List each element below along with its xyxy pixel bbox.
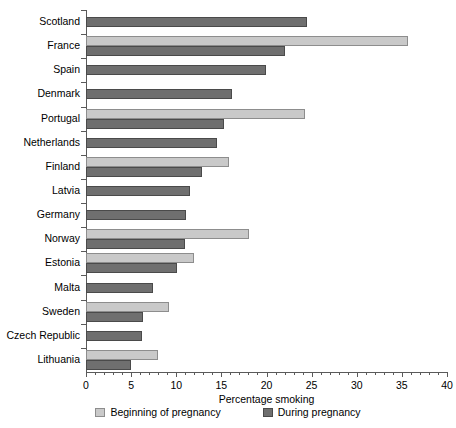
bar-during-france bbox=[86, 46, 285, 56]
x-axis-minor-tick bbox=[384, 372, 385, 375]
bar-during-latvia bbox=[86, 186, 190, 196]
y-axis-tick bbox=[81, 82, 86, 83]
category-label-norway: Norway bbox=[0, 233, 80, 244]
x-axis-minor-tick bbox=[411, 372, 412, 375]
x-axis-minor-tick bbox=[203, 372, 204, 375]
category-label-estonia: Estonia bbox=[0, 257, 80, 268]
y-axis-tick bbox=[81, 251, 86, 252]
x-axis-minor-tick bbox=[285, 372, 286, 375]
legend-swatch-begin-icon bbox=[95, 408, 105, 417]
x-axis-minor-tick bbox=[239, 372, 240, 375]
x-axis-tick-label: 25 bbox=[297, 379, 327, 391]
x-axis-tick-label: 5 bbox=[116, 379, 146, 391]
x-axis-minor-tick bbox=[303, 372, 304, 375]
y-axis-tick bbox=[81, 227, 86, 228]
x-axis-tick-label: 0 bbox=[71, 379, 101, 391]
x-axis-tick-label: 20 bbox=[252, 379, 282, 391]
x-axis-minor-tick bbox=[339, 372, 340, 375]
x-axis-title: Percentage smoking bbox=[86, 393, 447, 405]
bar-begin-lithuania bbox=[86, 350, 158, 360]
legend-item-during: During pregnancy bbox=[263, 406, 361, 418]
x-axis-minor-tick bbox=[420, 372, 421, 375]
y-axis-tick bbox=[81, 10, 86, 11]
x-axis-minor-tick bbox=[276, 372, 277, 375]
x-axis-minor-tick bbox=[122, 372, 123, 375]
x-axis-major-tick bbox=[402, 372, 403, 377]
x-axis-minor-tick bbox=[104, 372, 105, 375]
category-label-finland: Finland bbox=[0, 161, 80, 172]
x-axis-minor-tick bbox=[95, 372, 96, 375]
x-axis-minor-tick bbox=[230, 372, 231, 375]
legend-swatch-during-icon bbox=[263, 408, 273, 417]
category-label-scotland: Scotland bbox=[0, 16, 80, 27]
bar-during-malta bbox=[86, 283, 153, 293]
category-label-latvia: Latvia bbox=[0, 185, 80, 196]
category-label-portugal: Portugal bbox=[0, 113, 80, 124]
bar-begin-france bbox=[86, 36, 408, 46]
bar-begin-norway bbox=[86, 229, 249, 239]
x-axis-minor-tick bbox=[348, 372, 349, 375]
category-label-lithuania: Lithuania bbox=[0, 354, 80, 365]
x-axis-minor-tick bbox=[149, 372, 150, 375]
category-label-france: France bbox=[0, 40, 80, 51]
x-axis-tick-label: 15 bbox=[206, 379, 236, 391]
chart-legend: Beginning of pregnancy During pregnancy bbox=[0, 406, 456, 418]
x-axis-minor-tick bbox=[158, 372, 159, 375]
y-axis-tick bbox=[81, 203, 86, 204]
x-axis-minor-tick bbox=[212, 372, 213, 375]
y-axis-tick bbox=[81, 179, 86, 180]
x-axis-tick-label: 10 bbox=[161, 379, 191, 391]
bar-during-czech-republic bbox=[86, 331, 142, 341]
bar-during-sweden bbox=[86, 312, 143, 322]
bar-during-spain bbox=[86, 65, 266, 75]
bar-during-denmark bbox=[86, 89, 232, 99]
bar-during-portugal bbox=[86, 119, 224, 129]
y-axis-tick bbox=[81, 275, 86, 276]
x-axis-minor-tick bbox=[167, 372, 168, 375]
y-axis-tick bbox=[81, 131, 86, 132]
bar-begin-sweden bbox=[86, 302, 169, 312]
x-axis-minor-tick bbox=[248, 372, 249, 375]
y-axis-tick bbox=[81, 324, 86, 325]
x-axis-minor-tick bbox=[113, 372, 114, 375]
bar-during-estonia bbox=[86, 263, 177, 273]
x-axis-minor-tick bbox=[438, 372, 439, 375]
y-axis-tick bbox=[81, 58, 86, 59]
x-axis-minor-tick bbox=[429, 372, 430, 375]
x-axis-minor-tick bbox=[321, 372, 322, 375]
category-label-netherlands: Netherlands bbox=[0, 137, 80, 148]
x-axis-minor-tick bbox=[330, 372, 331, 375]
x-axis-minor-tick bbox=[366, 372, 367, 375]
x-axis-minor-tick bbox=[393, 372, 394, 375]
smoking-bar-chart: ScotlandFranceSpainDenmarkPortugalNether… bbox=[0, 0, 456, 428]
bar-during-lithuania bbox=[86, 360, 131, 370]
x-axis-minor-tick bbox=[194, 372, 195, 375]
category-label-spain: Spain bbox=[0, 64, 80, 75]
y-axis-tick bbox=[81, 34, 86, 35]
x-axis-minor-tick bbox=[257, 372, 258, 375]
legend-label-during: During pregnancy bbox=[278, 406, 361, 418]
bar-begin-estonia bbox=[86, 253, 194, 263]
category-label-denmark: Denmark bbox=[0, 88, 80, 99]
legend-label-begin: Beginning of pregnancy bbox=[110, 406, 220, 418]
x-axis-major-tick bbox=[131, 372, 132, 377]
y-axis-tick bbox=[81, 348, 86, 349]
x-axis-major-tick bbox=[312, 372, 313, 377]
x-axis-minor-tick bbox=[375, 372, 376, 375]
x-axis-major-tick bbox=[176, 372, 177, 377]
x-axis-minor-tick bbox=[294, 372, 295, 375]
x-axis-major-tick bbox=[267, 372, 268, 377]
x-axis-tick-label: 35 bbox=[387, 379, 417, 391]
bar-during-netherlands bbox=[86, 138, 217, 148]
x-axis-major-tick bbox=[357, 372, 358, 377]
x-axis-tick-label: 30 bbox=[342, 379, 372, 391]
category-label-sweden: Sweden bbox=[0, 306, 80, 317]
bar-begin-portugal bbox=[86, 109, 305, 119]
bar-begin-finland bbox=[86, 157, 229, 167]
legend-item-begin: Beginning of pregnancy bbox=[95, 406, 220, 418]
y-axis-tick bbox=[81, 155, 86, 156]
bar-during-scotland bbox=[86, 17, 307, 27]
category-label-malta: Malta bbox=[0, 282, 80, 293]
x-axis-tick-label: 40 bbox=[432, 379, 456, 391]
bar-during-germany bbox=[86, 210, 186, 220]
